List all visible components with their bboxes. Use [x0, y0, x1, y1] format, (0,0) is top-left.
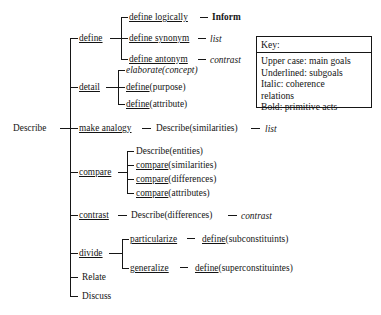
- relation-list-analogy: list: [265, 124, 277, 135]
- legend-line-bold: Bold: primitive acts: [261, 101, 371, 113]
- chain-label: Describe(differences): [131, 210, 212, 220]
- relation-label: contrast: [241, 211, 272, 221]
- relation-label: contrast: [210, 55, 241, 65]
- relation-define-subconstituints: define(subconstituints): [202, 234, 288, 245]
- bracket-stub-define-logically: [121, 17, 128, 18]
- leaf-define-synonym: define synonym: [129, 33, 189, 44]
- branch-node-detail: detail: [79, 82, 100, 93]
- relation-contrast-define: contrast: [210, 55, 241, 66]
- branch-node-define: define: [79, 33, 103, 44]
- trunk-spine: [70, 38, 71, 296]
- relation-dash-contrast-define: [198, 59, 206, 60]
- leaf-define-purpose: define(purpose): [126, 82, 186, 93]
- leaf-define-antonym: define antonym: [129, 54, 188, 65]
- branch-label-discuss: Discuss: [82, 291, 111, 301]
- relation-dash-list-analogy: [251, 128, 260, 129]
- leaf-label: elaborate(concept): [126, 65, 198, 75]
- leaf-label: Describe(entities): [136, 146, 203, 156]
- connector-detail-to-bracket: [106, 87, 118, 88]
- leaf-define-attribute: define(attribute): [126, 99, 187, 110]
- leaf-describe-entities: Describe(entities): [136, 146, 203, 157]
- bracket-spine-compare: [127, 151, 128, 193]
- diagram-canvas: Describe define define logically Inform …: [0, 0, 381, 315]
- bracket-stub-elaborate: [118, 70, 125, 71]
- branch-node-divide: divide: [79, 248, 103, 259]
- branch-label-detail: detail: [79, 82, 100, 92]
- root-node-describe: Describe: [13, 123, 46, 134]
- leaf-label-tail: (purpose): [150, 82, 186, 92]
- relation-dash-inform: [200, 17, 208, 18]
- bracket-spine-divide: [122, 239, 123, 268]
- relation-dash-list-define: [198, 38, 206, 39]
- leaf-label-tail: (differences): [168, 174, 216, 184]
- leaf-label: particularize: [130, 234, 177, 244]
- relation-label-underlined: define: [202, 234, 226, 244]
- legend-key-box: Key: Upper case: main goals Underlined: …: [256, 36, 372, 108]
- chain-describe-similarities: Describe(similarities): [156, 123, 238, 134]
- leaf-label-underlined: compare: [136, 174, 168, 184]
- bracket-stub-compare-differences: [127, 179, 134, 180]
- leaf-compare-attributes: compare(attributes): [136, 188, 210, 199]
- branch-node-discuss: Discuss: [82, 291, 111, 302]
- bracket-stub-define-attribute: [118, 104, 125, 105]
- relation-dash-contrast-chain: [118, 215, 127, 216]
- branch-label-define: define: [79, 33, 103, 43]
- relation-label-tail: (superconstituintes): [219, 263, 293, 273]
- legend-line-italic: Italic: coherence: [261, 78, 371, 90]
- branch-node-relate: Relate: [82, 272, 106, 283]
- relation-label: list: [210, 34, 222, 44]
- leaf-particularize: particularize: [130, 234, 177, 245]
- relation-contrast-end: contrast: [241, 211, 272, 222]
- trunk-stub-define: [70, 38, 78, 39]
- bracket-stub-define-synonym: [121, 38, 128, 39]
- leaf-elaborate-concept: elaborate(concept): [126, 65, 198, 76]
- bracket-stub-generalize: [122, 268, 129, 269]
- trunk-stub-compare: [70, 172, 78, 173]
- legend-line-underlined: Underlined: subgoals: [261, 67, 371, 79]
- trunk-stub-relate: [70, 277, 78, 278]
- leaf-label: define synonym: [129, 33, 189, 43]
- relation-label-tail: (subconstituints): [226, 234, 289, 244]
- relation-dash-contrast-end: [228, 215, 237, 216]
- connector-define-to-bracket: [110, 38, 121, 39]
- leaf-label-tail: (similarities): [168, 160, 216, 170]
- relation-label: list: [265, 124, 277, 134]
- connector-divide-to-bracket: [109, 253, 122, 254]
- leaf-label: define antonym: [129, 54, 188, 64]
- relation-inform: Inform: [212, 12, 241, 23]
- branch-label-relate: Relate: [82, 272, 106, 282]
- trunk-stub-contrast: [70, 215, 78, 216]
- branch-node-contrast: contrast: [79, 210, 109, 221]
- relation-dash-generalize: [180, 267, 188, 268]
- leaf-label: generalize: [130, 263, 169, 273]
- branch-label-make-analogy: make analogy: [79, 123, 132, 133]
- leaf-generalize: generalize: [130, 263, 169, 274]
- leaf-define-logically: define logically: [129, 12, 188, 23]
- leaf-label-underlined: define: [126, 82, 150, 92]
- chain-label: Describe(similarities): [156, 123, 238, 133]
- leaf-label-underlined: define: [126, 99, 150, 109]
- relation-label-underlined: define: [195, 263, 219, 273]
- trunk-stub-divide: [70, 253, 78, 254]
- bracket-stub-particularize: [122, 239, 129, 240]
- legend-title: Key:: [257, 37, 371, 53]
- leaf-label: define logically: [129, 12, 188, 22]
- relation-label: Inform: [212, 12, 241, 22]
- relation-list-define: list: [210, 34, 222, 45]
- leaf-label-tail: (attribute): [150, 99, 188, 109]
- leaf-label-underlined: compare: [136, 160, 168, 170]
- leaf-compare-similarities: compare(similarities): [136, 160, 217, 171]
- leaf-label-tail: (attributes): [168, 188, 209, 198]
- branch-node-compare: compare: [79, 167, 111, 178]
- legend-line-relations: relations: [261, 90, 371, 102]
- chain-describe-differences: Describe(differences): [131, 210, 212, 221]
- legend-body: Upper case: main goals Underlined: subgo…: [257, 53, 371, 115]
- branch-node-make-analogy: make analogy: [79, 123, 132, 134]
- legend-line-upper-case: Upper case: main goals: [261, 55, 371, 67]
- branch-label-compare: compare: [79, 167, 111, 177]
- leaf-compare-differences: compare(differences): [136, 174, 216, 185]
- relation-dash-particularize: [187, 238, 195, 239]
- branch-label-contrast: contrast: [79, 210, 109, 220]
- bracket-stub-define-antonym: [121, 59, 128, 60]
- bracket-stub-compare-attributes: [127, 193, 134, 194]
